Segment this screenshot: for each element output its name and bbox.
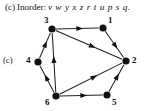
graph-edge-6-2 — [60, 63, 123, 94]
graph-node-label-5: 5 — [112, 98, 117, 107]
graph-node-1[interactable] — [99, 24, 106, 31]
arrowhead-6-3 — [51, 56, 56, 63]
directed-graph: 312465 — [0, 14, 150, 111]
arrowhead-4-3 — [42, 40, 49, 48]
graph-node-label-1: 1 — [108, 16, 113, 25]
arrowhead-6-4 — [42, 73, 50, 81]
graph-node-label-3: 3 — [44, 16, 49, 25]
figure-page: (c) Inorder:v w y x z r t u p s q. (c) 3… — [0, 0, 150, 111]
graph-node-3[interactable] — [48, 25, 55, 32]
caption-line: (c) Inorder:v w y x z r t u p s q. — [5, 1, 150, 15]
graph-node-label-4: 4 — [26, 56, 31, 65]
arrowhead-6-2 — [90, 73, 98, 81]
graph-node-2[interactable] — [122, 57, 129, 64]
arrowhead-5-2 — [113, 72, 121, 80]
graph-svg — [0, 14, 150, 111]
arrowhead-3-2 — [88, 43, 96, 50]
caption-sequence: v w y x z r t u p s q. — [48, 2, 131, 12]
graph-node-4[interactable] — [34, 58, 41, 65]
graph-node-label-6: 6 — [45, 98, 50, 107]
caption-prefix: (c) Inorder: — [5, 2, 46, 12]
graph-node-label-2: 2 — [132, 56, 137, 65]
arrowhead-6-5 — [80, 93, 87, 98]
graph-node-5[interactable] — [103, 91, 110, 98]
arrowhead-3-1 — [76, 26, 83, 31]
arrowhead-1-2 — [111, 42, 119, 50]
graph-node-6[interactable] — [52, 92, 59, 99]
